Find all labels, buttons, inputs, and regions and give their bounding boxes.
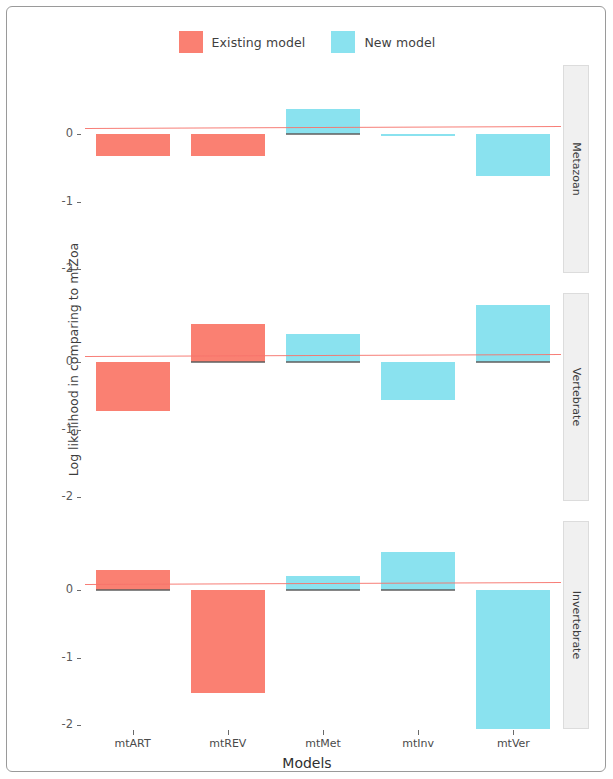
- y-tick-mark: [77, 590, 81, 591]
- bar-metazoan-mtinv: [381, 134, 455, 136]
- y-tick-mark: [77, 497, 81, 498]
- facet-strip-label: Vertebrate: [570, 368, 583, 426]
- chart-legend: Existing model New model: [7, 25, 606, 59]
- x-tick-mark: [323, 730, 324, 735]
- facet-panel-invertebrate: [85, 521, 561, 729]
- bar-invertebrate-mtver: [476, 590, 550, 729]
- bar-baseline-edge: [476, 361, 550, 363]
- x-tick-label-mtinv: mtInv: [373, 737, 463, 750]
- y-tick-label: -2: [7, 489, 73, 503]
- bar-baseline-edge: [286, 133, 360, 135]
- legend-swatch-existing-model: [179, 31, 203, 53]
- facet-strip-invertebrate: Invertebrate: [563, 521, 589, 729]
- bar-metazoan-mtart: [96, 134, 170, 156]
- x-tick-mark: [133, 730, 134, 735]
- x-tick-mark: [418, 730, 419, 735]
- facet-strip-metazoan: Metazoan: [563, 65, 589, 273]
- legend-label-new-model: New model: [364, 35, 435, 50]
- legend-label-existing-model: Existing model: [212, 35, 306, 50]
- y-tick-label: -2: [7, 261, 73, 275]
- x-axis-title: Models: [7, 755, 606, 771]
- bar-baseline-edge: [286, 589, 360, 591]
- y-tick-mark: [77, 430, 81, 431]
- x-tick-label-mtart: mtART: [88, 737, 178, 750]
- y-tick-label: 0: [7, 354, 73, 368]
- y-tick-mark: [77, 362, 81, 363]
- bar-vertebrate-mtinv: [381, 362, 455, 400]
- y-tick-label: -1: [7, 422, 73, 436]
- y-tick-label: 0: [7, 582, 73, 596]
- x-tick-mark: [513, 730, 514, 735]
- bar-metazoan-mtmet: [286, 109, 360, 134]
- plot-area: [85, 65, 561, 729]
- bar-baseline-edge: [191, 361, 265, 363]
- facet-strip-label: Metazoan: [570, 142, 583, 196]
- y-tick-label: -2: [7, 717, 73, 731]
- y-tick-mark: [77, 202, 81, 203]
- bar-baseline-edge: [96, 589, 170, 591]
- legend-item-new-model: New model: [331, 31, 435, 53]
- y-tick-mark: [77, 725, 81, 726]
- bar-invertebrate-mtrev: [191, 590, 265, 693]
- y-tick-mark: [77, 269, 81, 270]
- bar-vertebrate-mtart: [96, 362, 170, 411]
- bar-baseline-edge: [286, 361, 360, 363]
- legend-item-existing-model: Existing model: [179, 31, 306, 53]
- facet-strip-vertebrate: Vertebrate: [563, 293, 589, 501]
- x-tick-label-mtrev: mtREV: [183, 737, 273, 750]
- x-tick-label-mtver: mtVer: [468, 737, 558, 750]
- y-tick-mark: [77, 658, 81, 659]
- bar-invertebrate-mtart: [96, 570, 170, 590]
- facet-strip-label: Invertebrate: [570, 591, 583, 659]
- y-tick-label: 0: [7, 126, 73, 140]
- bar-baseline-edge: [381, 589, 455, 591]
- bar-metazoan-mtver: [476, 134, 550, 176]
- x-tick-label-mtmet: mtMet: [278, 737, 368, 750]
- legend-swatch-new-model: [331, 31, 355, 53]
- y-tick-label: -1: [7, 650, 73, 664]
- bar-invertebrate-mtinv: [381, 552, 455, 590]
- bar-metazoan-mtrev: [191, 134, 265, 156]
- facet-panel-vertebrate: [85, 293, 561, 501]
- figure-frame: Existing model New model Log likelihood …: [6, 6, 606, 772]
- y-tick-label: -1: [7, 194, 73, 208]
- y-tick-mark: [77, 134, 81, 135]
- facet-panel-metazoan: [85, 65, 561, 273]
- x-tick-mark: [228, 730, 229, 735]
- bar-vertebrate-mtmet: [286, 334, 360, 362]
